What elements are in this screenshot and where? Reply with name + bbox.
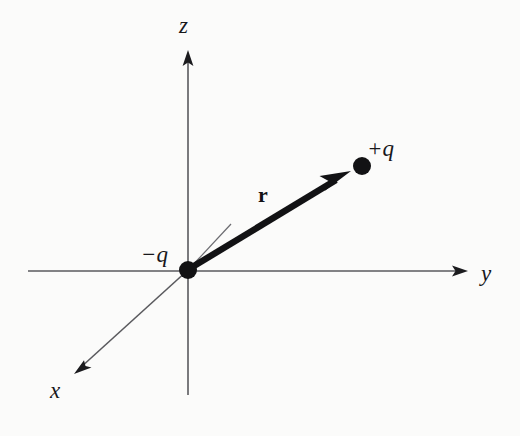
- coordinate-diagram-canvas: [0, 0, 520, 436]
- z-axis-label: z: [179, 14, 188, 37]
- x-axis-label: x: [50, 379, 60, 402]
- dipole-figure: z y x −q +q r: [0, 0, 520, 436]
- negative-charge-label: −q: [141, 243, 168, 266]
- y-axis-label: y: [481, 262, 491, 285]
- negative-charge-dot-icon: [179, 261, 197, 279]
- vector-r-label: r: [258, 184, 268, 206]
- x-axis-line: [80, 270, 188, 368]
- positive-charge-label: +q: [367, 137, 394, 160]
- x-axis-arrowhead-icon: [74, 360, 92, 374]
